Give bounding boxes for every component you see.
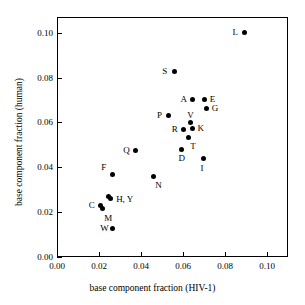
x-tick-label: 0.04 bbox=[133, 262, 149, 271]
x-tick-mark bbox=[99, 252, 100, 257]
data-point-d bbox=[179, 147, 184, 152]
point-label-c: C bbox=[89, 201, 95, 210]
y-tick-label: 0.06 bbox=[23, 118, 53, 127]
data-point-s bbox=[172, 69, 177, 74]
point-label-group-hy: H, Y bbox=[116, 195, 133, 204]
x-tick-label: 0.08 bbox=[217, 262, 233, 271]
y-tick-label: 0.10 bbox=[23, 28, 53, 37]
y-tick-mark bbox=[57, 78, 62, 79]
point-label-v: V bbox=[187, 111, 194, 120]
y-axis-label: base component fraction (human) bbox=[14, 27, 24, 257]
x-tick-mark bbox=[267, 252, 268, 257]
point-label-t: T bbox=[190, 142, 196, 151]
data-point-a bbox=[190, 97, 195, 102]
point-label-a: A bbox=[180, 95, 187, 104]
x-tick-mark bbox=[183, 252, 184, 257]
point-label-l: L bbox=[233, 28, 239, 37]
plot-area bbox=[57, 17, 288, 257]
data-point-f bbox=[110, 172, 115, 177]
y-tick-mark bbox=[57, 212, 62, 213]
point-label-s: S bbox=[162, 67, 167, 76]
y-tick-mark bbox=[57, 122, 62, 123]
scatter-chart-figure: 0.000.020.040.060.080.10 0.000.020.040.0… bbox=[0, 0, 305, 305]
x-tick-label: 0.02 bbox=[91, 262, 107, 271]
data-point-w bbox=[110, 226, 115, 231]
point-label-n: N bbox=[155, 181, 162, 190]
x-tick-mark bbox=[141, 252, 142, 257]
x-tick-label: 0.10 bbox=[259, 262, 275, 271]
data-point-t bbox=[186, 135, 191, 140]
point-label-w: W bbox=[100, 224, 109, 233]
data-point-m bbox=[100, 206, 105, 211]
point-label-d: D bbox=[179, 154, 186, 163]
point-label-m: M bbox=[104, 214, 112, 223]
y-tick-label: 0.04 bbox=[23, 163, 53, 172]
y-tick-label: 0.02 bbox=[23, 208, 53, 217]
point-label-p: P bbox=[157, 111, 162, 120]
data-point-q bbox=[133, 148, 138, 153]
point-label-i: I bbox=[201, 164, 204, 173]
y-tick-mark bbox=[57, 257, 62, 258]
y-tick-mark bbox=[57, 33, 62, 34]
data-point-y bbox=[108, 196, 113, 201]
point-label-r: R bbox=[172, 125, 178, 134]
y-tick-label: 0.00 bbox=[23, 253, 53, 262]
point-label-g: G bbox=[212, 104, 219, 113]
point-label-q: Q bbox=[123, 146, 130, 155]
x-tick-label: 0.00 bbox=[49, 262, 65, 271]
x-tick-mark bbox=[225, 252, 226, 257]
y-tick-mark bbox=[57, 167, 62, 168]
point-label-k: K bbox=[197, 124, 204, 133]
x-tick-label: 0.06 bbox=[175, 262, 191, 271]
data-point-n bbox=[151, 174, 156, 179]
point-label-f: F bbox=[101, 163, 106, 172]
y-tick-label: 0.08 bbox=[23, 73, 53, 82]
x-axis-label: base component fraction (HIV-1) bbox=[0, 283, 305, 293]
